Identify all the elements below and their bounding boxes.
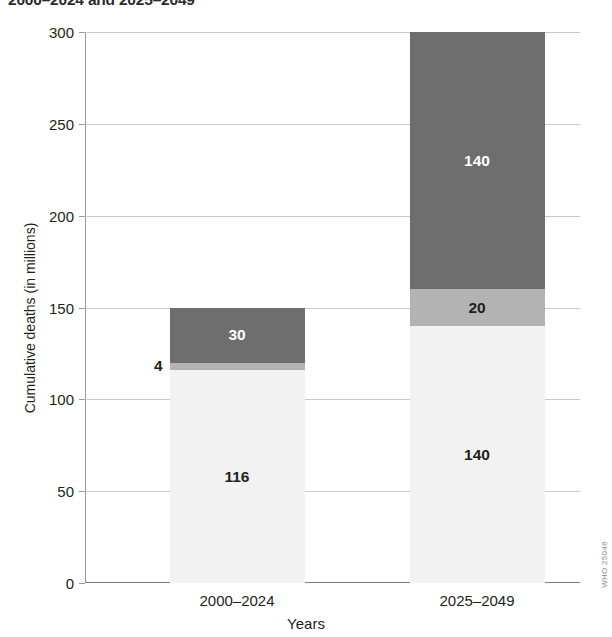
y-axis-tick-mark — [79, 124, 85, 125]
bar-segment-upper-segment[interactable]: 140 — [410, 32, 545, 289]
y-axis-tick-mark — [79, 308, 85, 309]
bar-segment-middle-segment[interactable] — [170, 363, 305, 370]
y-axis-tick-label: 300 — [49, 24, 74, 41]
bar-segment-value-label: 30 — [228, 327, 245, 343]
y-axis-tick-mark — [79, 216, 85, 217]
bar-segment-lower-segment[interactable]: 140 — [410, 326, 545, 583]
bar-segment-value-label: 140 — [464, 447, 490, 463]
bar-segment-value-label: 20 — [468, 300, 485, 316]
x-axis-title: Years — [0, 615, 612, 632]
y-axis-title: Cumulative deaths (in millions) — [22, 168, 38, 468]
bar-stack[interactable]: 14020140 — [410, 32, 545, 583]
y-axis-tick-label: 50 — [57, 483, 74, 500]
bar-segment-value-label: 140 — [464, 153, 490, 169]
x-axis-tick-label: 2025–2049 — [439, 592, 514, 609]
y-axis-tick-label: 100 — [49, 391, 74, 408]
bar-stack[interactable]: 11630 — [170, 308, 305, 584]
x-axis-tick-label: 2000–2024 — [199, 592, 274, 609]
y-axis-tick-label: 150 — [49, 299, 74, 316]
y-axis-tick-mark — [79, 399, 85, 400]
plot-area: 050100150200250300 41163014020140 — [85, 32, 580, 583]
y-axis-tick-mark — [79, 491, 85, 492]
y-axis-tick-label: 250 — [49, 115, 74, 132]
chart-title: 2000–2024 and 2025–2049 — [8, 0, 195, 9]
bar-segment-lower-segment[interactable]: 116 — [170, 370, 305, 583]
y-axis-tick-mark — [79, 32, 85, 33]
y-axis-tick-mark — [79, 583, 85, 584]
watermark-text: WHO 25046 — [600, 541, 609, 588]
bar-segment-value-label: 116 — [224, 469, 249, 485]
bar-segment-upper-segment[interactable]: 30 — [170, 308, 305, 363]
y-axis-tick-label: 0 — [66, 575, 74, 592]
y-axis-tick-label: 200 — [49, 207, 74, 224]
bar-segment-middle-segment[interactable]: 20 — [410, 289, 545, 326]
bar-segment-value-label-outside: 4 — [154, 357, 163, 375]
